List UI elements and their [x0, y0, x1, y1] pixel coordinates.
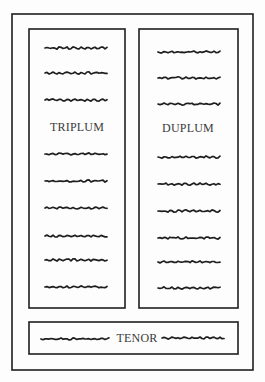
triplum-box	[29, 29, 125, 308]
duplum-box	[139, 29, 238, 308]
duplum-text-line	[158, 237, 220, 239]
outer-frame	[12, 14, 253, 370]
triplum-text-line	[45, 259, 107, 261]
duplum-label: DUPLUM	[162, 122, 214, 134]
triplum-text-line	[45, 235, 107, 237]
duplum-text-line	[158, 287, 220, 289]
triplum-text-line	[45, 207, 107, 209]
triplum-text-line	[45, 72, 107, 74]
tenor-label: TENOR	[115, 332, 160, 344]
duplum-text-line	[158, 183, 220, 185]
duplum-text-line	[158, 210, 220, 212]
duplum-text-line	[158, 261, 220, 263]
triplum-text-line	[45, 47, 107, 49]
triplum-text-line	[45, 180, 107, 182]
duplum-text-line	[158, 51, 220, 53]
duplum-text-line	[158, 77, 220, 79]
motet-layout-diagram: TRIPLUM DUPLUM TENOR	[0, 0, 265, 382]
triplum-text-line	[45, 286, 107, 288]
triplum-text-line	[45, 153, 107, 155]
tenor-text-line	[162, 337, 224, 339]
tenor-text-line	[41, 338, 109, 340]
diagram-canvas	[0, 0, 265, 382]
triplum-label: TRIPLUM	[50, 121, 104, 133]
triplum-text-line	[45, 99, 107, 101]
duplum-text-line	[158, 103, 220, 105]
duplum-text-line	[158, 156, 220, 158]
